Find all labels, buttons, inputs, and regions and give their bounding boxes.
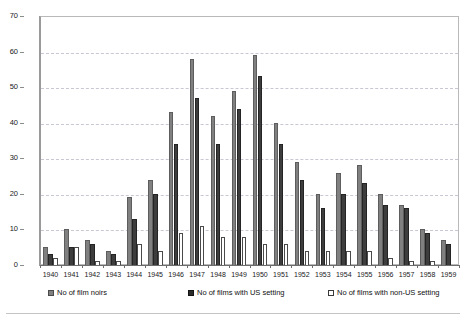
y-tick-label: 60 bbox=[10, 48, 18, 56]
legend-item-non-us-setting: No of films with non-US setting bbox=[328, 288, 440, 297]
x-tick-label: 1950 bbox=[250, 271, 271, 279]
y-axis: 010203040506070 bbox=[0, 0, 40, 266]
x-tick-label: 1946 bbox=[166, 271, 187, 279]
y-tick-mark bbox=[20, 16, 24, 17]
gridline bbox=[41, 230, 458, 231]
gridline bbox=[41, 159, 458, 160]
gridline bbox=[41, 53, 458, 54]
x-tick-mark bbox=[417, 265, 418, 268]
x-tick-mark bbox=[270, 265, 271, 268]
x-tick-label: 1945 bbox=[145, 271, 166, 279]
x-tick-mark bbox=[396, 265, 397, 268]
y-tick-label: 40 bbox=[10, 119, 18, 127]
legend-item-us-setting: No of films with US setting bbox=[188, 288, 285, 297]
x-tick-mark bbox=[187, 265, 188, 268]
x-tick-mark bbox=[459, 265, 460, 268]
gridline bbox=[41, 88, 458, 89]
x-tick-mark bbox=[103, 265, 104, 268]
x-tick-label: 1955 bbox=[354, 271, 375, 279]
dark-square-icon bbox=[188, 290, 194, 296]
legend-item-label: No of films with non-US setting bbox=[337, 288, 440, 297]
gray-square-icon bbox=[48, 290, 54, 296]
x-tick-label: 1958 bbox=[417, 271, 438, 279]
x-tick-mark bbox=[208, 265, 209, 268]
x-tick-label: 1954 bbox=[333, 271, 354, 279]
x-tick-mark bbox=[166, 265, 167, 268]
x-tick-label: 1940 bbox=[40, 271, 61, 279]
x-tick-mark bbox=[250, 265, 251, 268]
x-tick-mark bbox=[61, 265, 62, 268]
x-tick-label: 1943 bbox=[103, 271, 124, 279]
y-tick-label: 10 bbox=[10, 225, 18, 233]
x-tick-mark bbox=[229, 265, 230, 268]
gridlines bbox=[41, 17, 458, 264]
x-tick-mark bbox=[40, 265, 41, 268]
y-tick-mark bbox=[20, 158, 24, 159]
x-tick-mark bbox=[438, 265, 439, 268]
x-tick-mark bbox=[82, 265, 83, 268]
gridline bbox=[41, 195, 458, 196]
x-tick-label: 1942 bbox=[82, 271, 103, 279]
x-tick-label: 1944 bbox=[124, 271, 145, 279]
white-square-icon bbox=[328, 290, 334, 296]
x-tick-mark bbox=[375, 265, 376, 268]
x-tick-mark bbox=[145, 265, 146, 268]
x-tick-label: 1956 bbox=[375, 271, 396, 279]
y-tick-mark bbox=[20, 123, 24, 124]
x-tick-mark bbox=[333, 265, 334, 268]
x-tick-label: 1957 bbox=[396, 271, 417, 279]
x-tick-label: 1941 bbox=[61, 271, 82, 279]
plot-area bbox=[40, 16, 459, 265]
chart-container: 010203040506070 194019411942194319441945… bbox=[0, 0, 466, 321]
gridline bbox=[41, 124, 458, 125]
legend-item-film-noirs: No of film noirs bbox=[48, 288, 107, 297]
x-tick-mark bbox=[291, 265, 292, 268]
y-tick-label: 70 bbox=[10, 12, 18, 20]
y-tick-mark bbox=[20, 52, 24, 53]
y-tick-mark bbox=[20, 194, 24, 195]
bottom-divider bbox=[6, 313, 460, 314]
y-tick-mark bbox=[20, 229, 24, 230]
x-tick-label: 1959 bbox=[438, 271, 459, 279]
x-tick-label: 1949 bbox=[229, 271, 250, 279]
y-tick-mark bbox=[20, 265, 24, 266]
chart-legend: No of film noirs No of films with US set… bbox=[40, 288, 459, 302]
x-tick-label: 1948 bbox=[208, 271, 229, 279]
x-tick-label: 1952 bbox=[291, 271, 312, 279]
y-tick-label: 0 bbox=[14, 261, 18, 269]
x-tick-mark bbox=[124, 265, 125, 268]
legend-item-label: No of film noirs bbox=[57, 288, 107, 297]
x-tick-label: 1951 bbox=[270, 271, 291, 279]
y-tick-label: 20 bbox=[10, 190, 18, 198]
y-tick-mark bbox=[20, 87, 24, 88]
x-tick-label: 1953 bbox=[312, 271, 333, 279]
legend-item-label: No of films with US setting bbox=[197, 288, 285, 297]
x-tick-label: 1947 bbox=[187, 271, 208, 279]
x-tick-mark bbox=[312, 265, 313, 268]
y-tick-label: 50 bbox=[10, 83, 18, 91]
x-tick-mark bbox=[354, 265, 355, 268]
x-axis-labels: 1940194119421943194419451946194719481949… bbox=[40, 268, 459, 282]
y-tick-label: 30 bbox=[10, 154, 18, 162]
